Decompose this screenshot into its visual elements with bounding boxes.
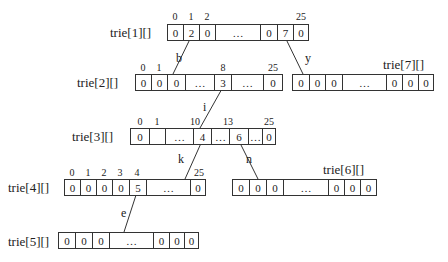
index-label: 25 xyxy=(194,168,204,178)
index-label: 1 xyxy=(155,117,160,127)
array-cell: 0 xyxy=(387,75,403,90)
ellipsis-cell: … xyxy=(110,233,154,248)
index-label: 25 xyxy=(264,117,274,127)
index-label: 1 xyxy=(189,12,194,22)
index-label: 10 xyxy=(190,117,200,127)
array-cell: 0 xyxy=(185,233,198,248)
array-cell: 6 xyxy=(230,129,249,144)
index-label: 2 xyxy=(102,168,107,178)
array-row: 0 … 4 … 6 … 0 xyxy=(130,128,276,145)
array-label-trie-4: trie[4][] xyxy=(8,181,49,194)
edge-y xyxy=(285,37,303,74)
edge-label-y: y xyxy=(305,52,311,64)
array-cell: 0 xyxy=(264,75,282,90)
index-label: 2 xyxy=(205,12,210,22)
array-cell: 0 xyxy=(310,75,326,90)
ellipsis-cell: … xyxy=(249,129,263,144)
index-label: 0 xyxy=(173,12,178,22)
array-label-trie-2: trie[2][] xyxy=(77,76,118,89)
array-label-trie-6: trie[6][] xyxy=(323,163,364,176)
index-label: 13 xyxy=(223,117,233,127)
ellipsis-cell: … xyxy=(216,25,261,40)
array-row: 0 0 0 … 3 … 0 xyxy=(135,74,283,91)
edge-label-i: i xyxy=(203,101,206,113)
edge-label-b: b xyxy=(176,52,182,64)
index-label: 1 xyxy=(86,168,91,178)
array-cell: 0 xyxy=(293,75,310,90)
array-cell: 0 xyxy=(329,180,345,195)
array-cell: 0 xyxy=(267,180,284,195)
array-cell: 0 xyxy=(170,233,185,248)
ellipsis-cell: … xyxy=(166,129,194,144)
array-label-trie-5: trie[5][] xyxy=(8,235,49,248)
ellipsis-cell: … xyxy=(212,129,230,144)
array-row: 0 0 0 … 0 0 0 xyxy=(292,74,434,91)
array-cell: 0 xyxy=(261,25,278,40)
array-label-trie-7: trie[7][] xyxy=(383,58,424,71)
array-cell: 0 xyxy=(419,75,433,90)
index-label: 3 xyxy=(118,168,123,178)
ellipsis-cell: … xyxy=(284,180,329,195)
array-cell: 0 xyxy=(326,75,343,90)
array-cell: 0 xyxy=(345,180,361,195)
array-cell: 0 xyxy=(200,25,216,40)
array-cell: 0 xyxy=(81,180,97,195)
ellipsis-cell: … xyxy=(147,180,191,195)
array-row: 0 0 0 … 0 0 0 xyxy=(232,179,377,196)
array-cell: 0 xyxy=(168,25,184,40)
array-cell: 0 xyxy=(361,180,376,195)
array-cell: 0 xyxy=(131,129,150,144)
array-cell: 0 xyxy=(263,129,275,144)
array-cell: 0 xyxy=(154,233,170,248)
array-row: 0 2 0 … 0 7 0 xyxy=(167,24,309,41)
array-cell: 0 xyxy=(191,180,205,195)
array-cell: 0 xyxy=(250,180,267,195)
array-label-trie-3: trie[3][] xyxy=(72,130,113,143)
array-cell: 0 xyxy=(168,75,186,90)
array-cell: 7 xyxy=(278,25,294,40)
index-label: 1 xyxy=(157,63,162,73)
array-label-trie-1: trie[1][] xyxy=(110,26,151,39)
array-cell: 0 xyxy=(65,180,81,195)
array-cell: 0 xyxy=(76,233,93,248)
array-row: 0 0 0 … 0 0 0 xyxy=(58,232,199,249)
array-cell: 0 xyxy=(113,180,130,195)
ellipsis-cell: … xyxy=(186,75,215,90)
ellipsis-cell: … xyxy=(232,75,264,90)
array-cell: 0 xyxy=(136,75,152,90)
array-cell: 0 xyxy=(97,180,113,195)
array-cell: 0 xyxy=(93,233,110,248)
array-cell-empty xyxy=(150,129,166,144)
array-cell: 0 xyxy=(403,75,419,90)
index-label: 4 xyxy=(135,168,140,178)
index-label: 0 xyxy=(141,63,146,73)
array-cell: 3 xyxy=(215,75,232,90)
ellipsis-cell: … xyxy=(343,75,387,90)
index-label: 8 xyxy=(221,63,226,73)
array-cell: 0 xyxy=(233,180,250,195)
array-cell: 2 xyxy=(184,25,200,40)
array-cell: 0 xyxy=(152,75,168,90)
array-cell: 0 xyxy=(59,233,76,248)
array-cell: 4 xyxy=(194,129,212,144)
array-row: 0 0 0 0 5 … 0 xyxy=(64,179,206,196)
array-cell: 0 xyxy=(294,25,308,40)
index-label: 0 xyxy=(138,117,143,127)
edge-label-k: k xyxy=(178,153,184,165)
index-label: 0 xyxy=(70,168,75,178)
index-label: 25 xyxy=(268,63,278,73)
edge-label-n: n xyxy=(246,153,252,165)
array-cell: 5 xyxy=(130,180,147,195)
index-label: 25 xyxy=(296,12,306,22)
edge-label-e: e xyxy=(121,207,126,219)
